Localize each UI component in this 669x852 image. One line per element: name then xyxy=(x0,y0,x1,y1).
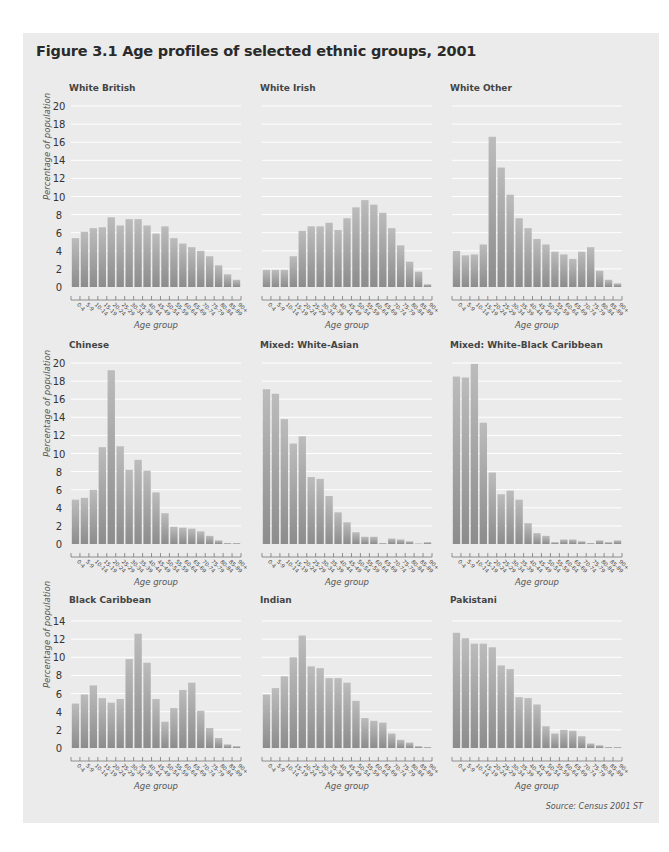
bar xyxy=(453,633,460,748)
bar xyxy=(170,238,177,287)
x-axis-label: Age group xyxy=(324,781,369,791)
bar xyxy=(560,254,567,287)
bar xyxy=(498,494,505,544)
bar xyxy=(415,543,422,544)
chart-title: Pakistani xyxy=(450,595,497,605)
y-tick-label: 10 xyxy=(53,449,66,460)
y-tick-label: 8 xyxy=(56,467,62,478)
bar xyxy=(379,723,386,748)
x-tick-label: 5-9 xyxy=(466,558,477,569)
bar xyxy=(515,218,522,287)
bar xyxy=(179,528,186,544)
bar xyxy=(480,423,487,544)
y-tick-label: 12 xyxy=(53,173,66,184)
bar xyxy=(72,704,79,748)
bar xyxy=(161,226,168,287)
bar xyxy=(551,542,558,544)
bar xyxy=(406,262,413,287)
bar xyxy=(179,690,186,748)
y-tick-label: 0 xyxy=(56,282,62,293)
bar xyxy=(515,500,522,544)
bar xyxy=(197,711,204,748)
bar xyxy=(143,663,150,748)
bar xyxy=(415,746,422,748)
bar xyxy=(152,234,159,287)
bar xyxy=(233,746,240,748)
bar xyxy=(170,527,177,544)
bar xyxy=(108,703,115,748)
bar xyxy=(299,231,306,287)
bar xyxy=(179,244,186,287)
bar xyxy=(578,736,585,748)
bar xyxy=(272,688,279,748)
x-tick-label: 5-9 xyxy=(85,301,96,312)
bar xyxy=(370,537,377,544)
bar xyxy=(188,683,195,748)
x-tick-label: 5-9 xyxy=(85,558,96,569)
x-tick-label: 5-9 xyxy=(276,762,287,773)
bar xyxy=(388,733,395,748)
bar xyxy=(134,460,141,544)
chart-title: White Other xyxy=(450,83,512,93)
bar xyxy=(197,251,204,287)
bar xyxy=(361,200,368,287)
x-axis-label: Age group xyxy=(133,320,178,330)
y-tick-label: 20 xyxy=(53,358,66,369)
bar xyxy=(506,669,513,748)
bar xyxy=(263,270,270,287)
bar xyxy=(143,471,150,544)
bar xyxy=(533,239,540,287)
bar xyxy=(290,657,297,748)
chart-white-british: White British02468101214161820Percentage… xyxy=(42,83,250,330)
chart-title: Mixed: White-Asian xyxy=(260,340,359,350)
bar xyxy=(117,446,124,544)
bar xyxy=(343,522,350,544)
bar xyxy=(489,137,496,287)
bar xyxy=(533,704,540,748)
bar xyxy=(424,747,431,748)
bar xyxy=(524,228,531,287)
bar xyxy=(263,389,270,544)
bar xyxy=(480,244,487,287)
bar xyxy=(424,542,431,544)
y-tick-label: 18 xyxy=(53,376,66,387)
bar xyxy=(125,470,132,544)
bar xyxy=(569,539,576,544)
bar xyxy=(263,694,270,748)
bar xyxy=(72,238,79,287)
x-axis-label: Age group xyxy=(324,320,369,330)
bar xyxy=(290,444,297,544)
bar xyxy=(281,676,288,748)
bar xyxy=(316,226,323,287)
y-tick-label: 14 xyxy=(53,155,66,166)
chart-white-irish: White Irish0-45-910-1415-1920-2425-2930-… xyxy=(260,83,441,330)
bar xyxy=(471,644,478,748)
bar xyxy=(560,539,567,544)
bar xyxy=(406,541,413,544)
y-tick-label: 2 xyxy=(56,725,62,736)
bar xyxy=(489,647,496,748)
chart-title: Mixed: White-Black Caribbean xyxy=(450,340,603,350)
y-tick-label: 12 xyxy=(53,634,66,645)
bar xyxy=(299,436,306,544)
chart-title: Black Caribbean xyxy=(69,595,151,605)
bar xyxy=(299,636,306,748)
bar xyxy=(596,540,603,544)
bar xyxy=(415,272,422,287)
y-axis-label: Percentage of population xyxy=(42,350,52,457)
bar xyxy=(578,541,585,544)
bar xyxy=(343,683,350,748)
x-axis-label: Age group xyxy=(133,781,178,791)
y-axis-label: Percentage of population xyxy=(42,581,52,688)
x-tick-label: 0-4 xyxy=(76,762,87,773)
bar xyxy=(325,223,332,287)
bar xyxy=(506,491,513,544)
y-tick-label: 8 xyxy=(56,670,62,681)
bar xyxy=(361,537,368,544)
bar xyxy=(152,699,159,748)
x-axis-label: Age group xyxy=(514,577,559,587)
bar xyxy=(361,718,368,748)
bar xyxy=(215,540,222,544)
bar xyxy=(334,230,341,287)
bar xyxy=(308,477,315,544)
